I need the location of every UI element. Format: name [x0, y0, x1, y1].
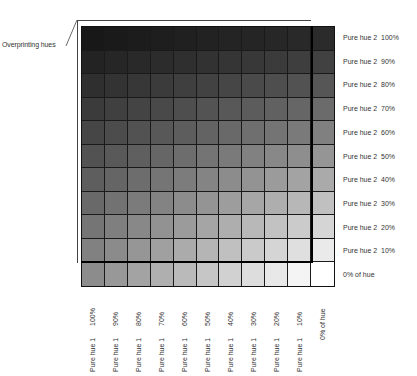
grid-cell	[288, 27, 311, 51]
grid-cell	[105, 121, 128, 145]
grid-cell	[128, 145, 151, 169]
grid-cell	[174, 51, 197, 75]
grid-cell	[128, 168, 151, 192]
grid-cell	[174, 74, 197, 98]
grid-cell	[174, 145, 197, 169]
grid-cell	[105, 98, 128, 122]
grid-cell	[151, 239, 174, 263]
hue2-label: Pure hue 2	[343, 153, 377, 160]
grid-cell	[151, 51, 174, 75]
grid-cell	[82, 215, 105, 239]
grid-cell	[242, 192, 265, 216]
grid-cell	[265, 168, 288, 192]
grid-cell	[242, 98, 265, 122]
grid-cell	[197, 215, 220, 239]
hue2-label: Pure hue 2	[343, 247, 377, 254]
grid-cell	[242, 74, 265, 98]
pure-hue-region-outline-vertical	[311, 26, 313, 263]
grid-cell	[219, 215, 242, 239]
hue2-label: Pure hue 2	[343, 34, 377, 41]
hue1-percent: 100%	[89, 308, 96, 326]
grid-cell	[219, 145, 242, 169]
grid-cell	[219, 74, 242, 98]
hue1-percent: 70%	[158, 312, 165, 326]
grid-cell	[219, 192, 242, 216]
grid-cell	[82, 121, 105, 145]
callout-overprinting-hues: Overprinting hues	[2, 41, 56, 48]
grid-cell	[265, 121, 288, 145]
grid-cell	[151, 192, 174, 216]
grid-cell	[288, 145, 311, 169]
grid-cell	[311, 239, 334, 263]
grid-cell	[288, 51, 311, 75]
hue2-label: Pure hue 2	[343, 129, 377, 136]
hue2-percent: 50%	[381, 153, 395, 160]
grid-cell	[105, 51, 128, 75]
grid-cell	[265, 74, 288, 98]
grid-cell	[265, 51, 288, 75]
grid-cell	[219, 121, 242, 145]
grid-cell	[174, 192, 197, 216]
hue2-percent: 20%	[381, 224, 395, 231]
grid-cell	[311, 98, 334, 122]
grid-cell	[174, 168, 197, 192]
hue2-percent: 80%	[381, 81, 395, 88]
grid-cell	[288, 98, 311, 122]
grid-cell	[82, 27, 105, 51]
grid-cell	[105, 239, 128, 263]
grid-cell	[311, 192, 334, 216]
hue1-percent: 60%	[181, 312, 188, 326]
grid-cell	[265, 262, 288, 286]
grid-cell	[265, 192, 288, 216]
hue1-percent: 80%	[135, 312, 142, 326]
grid-cell	[128, 192, 151, 216]
grid-cell	[242, 145, 265, 169]
grid-cell	[105, 262, 128, 286]
grid-cell	[128, 121, 151, 145]
grid-cell	[197, 51, 220, 75]
grid-cell	[219, 51, 242, 75]
hue2-percent: 10%	[381, 247, 395, 254]
grid-cell	[197, 192, 220, 216]
hue2-percent: 70%	[381, 105, 395, 112]
grid-cell	[288, 74, 311, 98]
hue1-label: Pure hue 1	[181, 338, 188, 372]
hue1-percent: 10%	[296, 312, 303, 326]
grid-cell	[128, 239, 151, 263]
grid-cell	[128, 98, 151, 122]
hue2-percent: 90%	[381, 58, 395, 65]
grid-cell	[219, 262, 242, 286]
grid-cell	[311, 262, 334, 286]
hue2-label: Pure hue 2	[343, 200, 377, 207]
grid-cell	[82, 51, 105, 75]
grid-cell	[128, 74, 151, 98]
grid-cell	[288, 168, 311, 192]
grid-cell	[265, 145, 288, 169]
grid-cell	[105, 168, 128, 192]
grid-cell	[174, 98, 197, 122]
hue1-label: Pure hue 1	[89, 338, 96, 372]
grid-cell	[288, 239, 311, 263]
hue1-label: Pure hue 1	[112, 338, 119, 372]
grid-cell	[128, 51, 151, 75]
hue2-percent: 60%	[381, 129, 395, 136]
hue1-label: Pure hue 1	[204, 338, 211, 372]
grid-cell	[197, 168, 220, 192]
hue2-label: 0% of hue	[343, 271, 375, 278]
hue1-label: Pure hue 1	[227, 338, 234, 372]
grid-cell	[151, 74, 174, 98]
grid-cell	[265, 27, 288, 51]
outer-frame-left-line	[77, 20, 78, 263]
grid-cell	[197, 239, 220, 263]
grid-cell	[151, 98, 174, 122]
hue2-percent: 40%	[381, 176, 395, 183]
grid-cell	[288, 192, 311, 216]
grid-cell	[82, 98, 105, 122]
grid-cell	[82, 74, 105, 98]
grid-cell	[197, 98, 220, 122]
grid-cell	[174, 121, 197, 145]
grid-cell	[242, 121, 265, 145]
grid-cell	[219, 239, 242, 263]
grid-cell	[105, 192, 128, 216]
hue1-label: Pure hue 1	[250, 338, 257, 372]
